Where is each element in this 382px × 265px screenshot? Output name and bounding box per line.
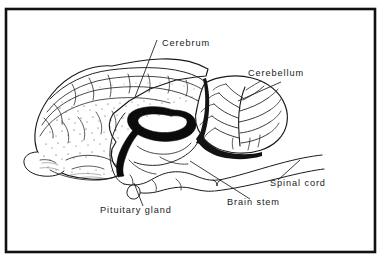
figure-container: Cerebrum Cerebellum Spinal cord Brain st…	[0, 0, 382, 265]
label-cerebrum: Cerebrum	[162, 38, 210, 48]
pituitary-gland	[127, 185, 140, 199]
label-spinal-cord: Spinal cord	[270, 178, 326, 188]
label-pituitary-gland: Pituitary gland	[100, 205, 172, 215]
label-brain-stem: Brain stem	[227, 197, 280, 207]
label-cerebellum: Cerebellum	[248, 68, 304, 78]
brain-anatomy-diagram: Cerebrum Cerebellum Spinal cord Brain st…	[0, 0, 382, 265]
